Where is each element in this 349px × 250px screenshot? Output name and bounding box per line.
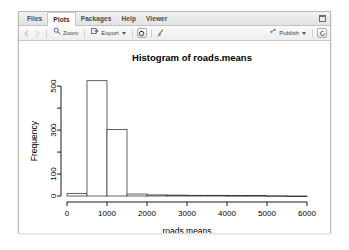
histogram-bar [147, 195, 167, 196]
toolbar-separator-2 [84, 29, 85, 38]
tab-packages[interactable]: Packages [76, 12, 117, 25]
tab-files-label: Files [27, 15, 42, 22]
tab-help-label: Help [122, 15, 137, 22]
y-axis-tick-label: 500 [49, 79, 58, 93]
y-axis-tick-label: 300 [49, 123, 58, 137]
clear-all-plots-icon[interactable] [156, 24, 165, 42]
export-icon [91, 27, 99, 39]
histogram-bar [187, 195, 207, 196]
tab-files[interactable]: Files [22, 12, 47, 25]
chevron-down-icon [122, 32, 126, 35]
x-axis-tick-label: 4000 [218, 209, 236, 218]
plot-canvas: Histogram of roads.means0100300500Freque… [19, 41, 330, 233]
x-axis-tick-label: 5000 [258, 209, 276, 218]
y-axis-tick-label: 0 [49, 193, 58, 198]
tab-viewer-label: Viewer [146, 15, 167, 22]
toolbar-right-group: Publish [267, 27, 327, 39]
toolbar-separator-1 [46, 29, 47, 38]
tab-plots-label: Plots [53, 16, 69, 23]
histogram-bar [267, 196, 287, 197]
publish-label: Publish [279, 27, 299, 39]
publish-button[interactable]: Publish [267, 27, 308, 39]
tab-help[interactable]: Help [117, 12, 142, 25]
x-axis-tick-label: 6000 [298, 209, 316, 218]
histogram-bar [67, 193, 87, 196]
export-button[interactable]: Export [89, 27, 127, 39]
export-label: Export [101, 27, 118, 39]
back-arrow-icon[interactable] [22, 29, 31, 38]
zoom-button[interactable]: Zoom [51, 27, 80, 39]
histogram-bar [167, 195, 187, 196]
plots-panel: Files Plots Packages Help Viewer Zoom [18, 11, 331, 233]
histogram-bar [227, 196, 247, 197]
histogram-bar [287, 196, 307, 197]
publish-icon [269, 27, 277, 39]
plots-toolbar: Zoom Export Publish [19, 26, 330, 41]
histogram-plot: Histogram of roads.means0100300500Freque… [19, 41, 330, 233]
refresh-icon[interactable] [317, 28, 327, 38]
remove-plot-icon[interactable] [137, 28, 147, 38]
x-axis-tick-label: 2000 [138, 209, 156, 218]
toolbar-separator-5 [312, 29, 313, 38]
tab-packages-label: Packages [81, 15, 112, 22]
y-axis-title: Frequency [29, 120, 39, 161]
x-axis-tick-label: 1000 [98, 209, 116, 218]
y-axis-tick-label: 100 [49, 167, 58, 181]
x-axis-tick-label: 3000 [178, 209, 196, 218]
histogram-bar [207, 195, 227, 196]
toolbar-separator-4 [151, 29, 152, 38]
publish-chevron-down-icon [302, 32, 306, 35]
x-axis-tick-label: 0 [65, 209, 70, 218]
plot-title: Histogram of roads.means [132, 52, 252, 63]
toolbar-separator-3 [132, 29, 133, 38]
window-controls [316, 15, 326, 22]
forward-arrow-icon[interactable] [33, 29, 42, 38]
histogram-bar [127, 194, 147, 196]
zoom-label: Zoom [63, 27, 78, 39]
maximize-icon[interactable] [319, 15, 326, 22]
x-axis-title: roads.means [162, 226, 211, 233]
panel-tab-bar: Files Plots Packages Help Viewer [19, 12, 330, 26]
histogram-bar [247, 196, 267, 197]
histogram-bar [107, 129, 127, 196]
magnifier-icon [53, 27, 61, 39]
histogram-bar [87, 81, 107, 196]
tab-plots[interactable]: Plots [47, 12, 75, 26]
